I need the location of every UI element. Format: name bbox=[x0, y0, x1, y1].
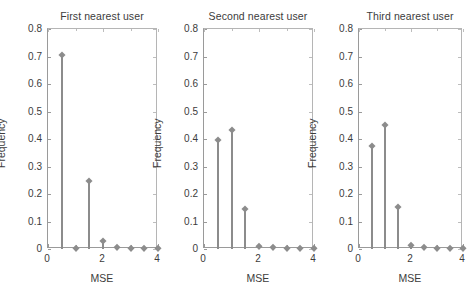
x-tick-mirror bbox=[359, 29, 360, 32]
y-tick-mirror bbox=[458, 167, 461, 168]
y-tick-mirror bbox=[458, 84, 461, 85]
y-axis-label: Frequency bbox=[306, 118, 318, 168]
plot-axes bbox=[358, 28, 462, 248]
y-tick bbox=[359, 112, 362, 113]
data-point-marker bbox=[368, 143, 375, 150]
y-tick bbox=[359, 249, 362, 250]
x-tick bbox=[359, 244, 360, 247]
y-tick-label: 0.1 bbox=[324, 215, 353, 226]
y-tick-mirror bbox=[458, 29, 461, 30]
y-tick-label: 0 bbox=[324, 243, 353, 254]
data-point-marker bbox=[381, 121, 388, 128]
x-tick-mirror bbox=[385, 29, 386, 31]
y-tick-label: 0.6 bbox=[324, 78, 353, 89]
y-tick-mirror bbox=[458, 139, 461, 140]
data-point-marker bbox=[421, 244, 427, 250]
x-tick-mirror bbox=[437, 29, 438, 31]
y-tick bbox=[359, 194, 362, 195]
y-tick-label: 0.3 bbox=[324, 160, 353, 171]
x-tick-label: 4 bbox=[459, 253, 465, 264]
data-point-marker bbox=[434, 245, 440, 251]
x-tick-mirror bbox=[463, 29, 464, 32]
chart-panel-3: Third nearest user00.10.20.30.40.50.60.7… bbox=[0, 0, 474, 302]
y-tick-label: 0.4 bbox=[324, 133, 353, 144]
y-tick bbox=[359, 139, 362, 140]
y-tick-label: 0.2 bbox=[324, 188, 353, 199]
x-tick-label: 2 bbox=[407, 253, 413, 264]
data-point-marker bbox=[447, 245, 453, 251]
y-tick bbox=[359, 167, 362, 168]
y-tick bbox=[359, 57, 362, 58]
y-tick bbox=[359, 84, 362, 85]
y-tick bbox=[359, 222, 362, 223]
stem-line bbox=[371, 146, 373, 249]
y-tick-label: 0.8 bbox=[324, 23, 353, 34]
stem-plot-figure: First nearest user00.10.20.30.40.50.60.7… bbox=[0, 0, 474, 302]
y-tick-mirror bbox=[458, 57, 461, 58]
panel-title: Third nearest user bbox=[358, 10, 462, 22]
stem-line bbox=[384, 125, 386, 249]
x-axis-label: MSE bbox=[358, 272, 462, 284]
stem-line bbox=[397, 207, 399, 249]
y-tick-mirror bbox=[458, 112, 461, 113]
data-point-marker bbox=[394, 203, 401, 210]
y-tick-mirror bbox=[458, 222, 461, 223]
data-point-marker bbox=[460, 245, 466, 251]
data-point-marker bbox=[408, 242, 414, 248]
y-tick-label: 0.5 bbox=[324, 105, 353, 116]
y-tick-mirror bbox=[458, 194, 461, 195]
x-tick-label: 0 bbox=[355, 253, 361, 264]
x-tick-mirror bbox=[411, 29, 412, 32]
y-tick-label: 0.7 bbox=[324, 50, 353, 61]
